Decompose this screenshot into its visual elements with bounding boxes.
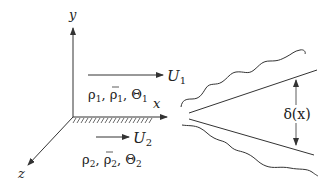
mixing-layer-diagram: y x z U1 ρ1, ρ1, Θ1 U2 ρ2, ρ2, Θ2 δ(x) [0,0,335,187]
splitter-plate-hatching [73,118,152,123]
y-axis-label: y [68,7,77,22]
upper-stream-properties: ρ1, ρ1, Θ1 [88,87,148,104]
z-axis-label: z [17,166,25,181]
x-axis-label: x [153,96,161,111]
lower-stream-properties: ρ2, ρ2, Θ2 [82,152,142,169]
thickness-label: δ(x) [283,106,310,122]
lower-velocity-label: U2 [133,129,152,148]
upper-turbulent-edge [181,50,305,107]
z-axis [28,117,73,165]
lower-mixing-boundary [189,119,314,155]
upper-velocity-label: U1 [167,67,186,86]
